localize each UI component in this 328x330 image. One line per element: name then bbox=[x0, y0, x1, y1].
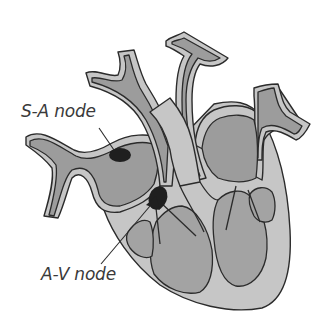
sa-node-label: S-A node bbox=[21, 103, 96, 120]
av-node-label: A-V node bbox=[41, 266, 116, 283]
sa-node bbox=[109, 148, 131, 162]
